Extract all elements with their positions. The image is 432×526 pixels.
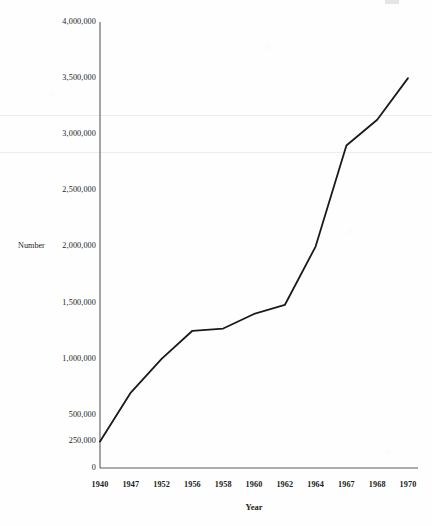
x-tick-label: 1962: [269, 481, 301, 489]
x-tick-label: 1967: [330, 481, 362, 489]
chart-figure: 0250,000500,0001,000,0001,500,0002,000,0…: [0, 0, 432, 526]
x-tick-label: 1970: [392, 481, 424, 489]
y-tick-label: 250,000: [69, 437, 96, 445]
y-tick-label: 1,500,000: [62, 299, 96, 307]
y-tick-label: 2,000,000: [62, 242, 96, 250]
y-tick-label: 4,000,000: [62, 18, 96, 26]
x-tick-label: 1952: [146, 481, 178, 489]
y-tick-label: 0: [92, 464, 96, 472]
x-tick-label: 1968: [361, 481, 393, 489]
data-series-line: [100, 78, 408, 441]
x-tick-label: 1964: [300, 481, 332, 489]
x-tick-label: 1940: [84, 481, 116, 489]
x-tick-label: 1958: [207, 481, 239, 489]
x-tick-label: 1947: [115, 481, 147, 489]
x-tick-label: 1956: [176, 481, 208, 489]
x-axis-title: Year: [224, 503, 284, 512]
y-axis-title: Number: [18, 242, 45, 250]
y-tick-label: 3,000,000: [62, 130, 96, 138]
y-tick-label: 500,000: [69, 411, 96, 419]
x-tick-label: 1960: [238, 481, 270, 489]
y-tick-label: 3,500,000: [62, 74, 96, 82]
y-tick-label: 1,000,000: [62, 355, 96, 363]
y-tick-label: 2,500,000: [62, 186, 96, 194]
